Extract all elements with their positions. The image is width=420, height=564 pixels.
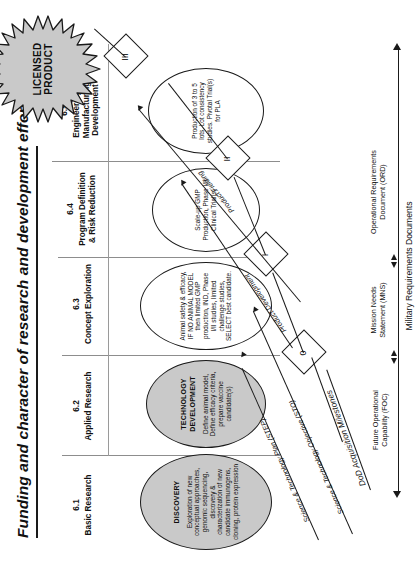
phase-6-2-number: 6.2 (72, 360, 81, 452)
band-rule-3 (108, 162, 109, 258)
ord-label-line2: Document (ORD) (379, 112, 388, 272)
stage-technology-development: TECHNOLOGY DEVELOPMENT Define animal mod… (146, 360, 266, 448)
phase-6-3-number: 6.3 (72, 256, 81, 352)
licensed-product-line1: LICENSED (32, 43, 43, 96)
requirements-axis-right-arrow (393, 43, 401, 50)
licensed-product-line2: PRODUCT (43, 43, 54, 95)
rd-funding-diagram: Funding and character of research and de… (0, 0, 420, 564)
licensed-product-burst: LICENSED PRODUCT (0, 10, 102, 128)
phase-header-6-1: 6.1 Basic Research (72, 462, 94, 548)
phase-6-3-name: Concept Exploration (84, 256, 93, 352)
stage-discovery-body: Exploration of new conceptual approaches… (186, 463, 240, 541)
dod-milestones-axis-line (326, 370, 371, 491)
stage-animal-safety-body: Animal safety & efficacy, IF NO ANIMAL M… (179, 271, 233, 341)
flow-product-fielding-arrowhead (135, 103, 143, 111)
requirements-axis-line (398, 46, 399, 494)
stage-production-lots-body: Production of 3 to 5 lots. Lot consisten… (191, 77, 222, 145)
band-rule-2 (108, 258, 109, 356)
title-underline (36, 146, 38, 538)
phase-6-1-name: Basic Research (84, 462, 93, 548)
phase-header-6-2: 6.2 Applied Research (72, 360, 94, 452)
requirements-tick-ord-left (391, 262, 397, 268)
phase-6-4-name-line2: & Risk Reduction (88, 166, 97, 252)
page-title: Funding and character of research and de… (14, 102, 32, 538)
requirements-tick-ord-right (391, 254, 397, 260)
stage-tech-dev-title-line2: DEVELOPMENT (189, 369, 197, 439)
requirements-tick-mns-right (391, 350, 397, 356)
phase-separator-1 (62, 455, 280, 456)
military-requirements-documents-label: Military Requirements Documents (404, 156, 414, 376)
stage-tech-dev-body: Define animal model, Define efficacy cri… (202, 369, 233, 439)
foc-label-line2: Capability (FOC) (381, 360, 390, 480)
phase-6-2-name: Applied Research (84, 360, 93, 452)
requirements-axis-left-arrow (393, 491, 401, 498)
flow-step-arrowhead (239, 350, 247, 357)
stage-discovery-title: DISCOVERY (173, 463, 181, 541)
phase-header-6-3: 6.3 Concept Exploration (72, 256, 94, 352)
requirements-tick-mns-left (391, 358, 397, 364)
dod-acquisition-milestones-label: DoD Acquisition Milestones (324, 389, 368, 488)
phase-6-4-name-line1: Program Definition (78, 166, 87, 252)
phase-6-4-number: 6.4 (66, 166, 75, 252)
phase-separator-2 (62, 355, 280, 356)
diagram-frame: Funding and character of research and de… (0, 0, 420, 564)
phase-header-6-4: 6.4 Program Definition & Risk Reduction (66, 166, 97, 252)
stage-tech-dev-title-line1: TECHNOLOGY (180, 369, 188, 439)
stage-discovery: DISCOVERY Exploration of new conceptual … (140, 454, 272, 550)
phase-6-1-number: 6.1 (72, 462, 81, 548)
licensed-product-label: LICENSED PRODUCT (32, 43, 55, 96)
band-rule-1 (108, 356, 109, 456)
